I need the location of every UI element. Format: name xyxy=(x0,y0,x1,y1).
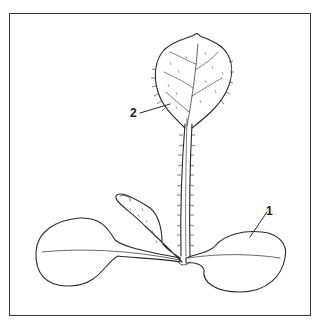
left-cotyledon xyxy=(36,218,180,286)
main-petiole-vein xyxy=(186,118,187,256)
main-leaf-blade xyxy=(155,34,231,128)
label-2-leader xyxy=(140,104,170,113)
main-petiole-left xyxy=(181,124,185,256)
right-cotyledon xyxy=(186,232,286,292)
seedling-drawing xyxy=(0,0,322,330)
label-1-leader xyxy=(250,212,267,237)
label-2: 2 xyxy=(130,107,137,119)
label-1: 1 xyxy=(266,205,273,217)
left-cotyledon-midrib xyxy=(42,250,180,260)
hairs xyxy=(151,61,234,246)
main-petiole-right xyxy=(190,124,192,256)
leaf-speckles xyxy=(130,52,223,243)
right-cotyledon-midrib xyxy=(188,255,280,258)
